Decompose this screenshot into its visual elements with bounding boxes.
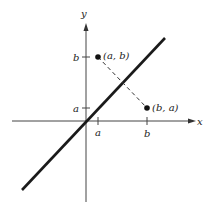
point-b-a: [144, 105, 150, 111]
y-axis-label: y: [80, 8, 87, 19]
point-a-b: [95, 54, 101, 60]
point-b-a-label: (b, a): [152, 102, 179, 113]
x-axis-arrow-icon: [188, 119, 196, 124]
y-tick-label-a: a: [73, 103, 79, 114]
x-tick-label-b: b: [144, 128, 150, 139]
point-a-b-label: (a, b): [103, 50, 130, 61]
line-y-equals-x: [22, 38, 165, 190]
y-axis-arrow-icon: [84, 23, 89, 31]
y-axis: [84, 23, 89, 202]
diagram-canvas: x y a b a b (a, b) (b, a): [0, 0, 211, 205]
x-axis-label: x: [197, 116, 203, 127]
x-axis: [12, 119, 196, 124]
x-tick-label-a: a: [95, 127, 101, 138]
y-tick-label-b: b: [73, 52, 79, 63]
